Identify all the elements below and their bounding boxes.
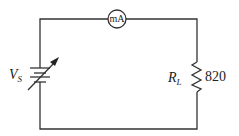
wire-top-left [40,19,108,68]
source-symbol: V [9,67,18,82]
wire-top-right [126,19,197,62]
resistor-zigzag-icon [192,62,201,92]
source-label: VS [9,68,22,83]
load-value: 820 [205,70,226,84]
ammeter-label: mA [108,14,126,24]
load-label: RL [168,71,182,86]
source-subscript: S [18,74,23,84]
load-symbol: R [168,70,177,85]
circuit-diagram: mA VS RL 820 [0,0,239,136]
variable-arrow-head-icon [50,57,59,66]
variable-arrow-line [28,61,56,90]
wire-bottom [40,82,197,129]
load-subscript: L [177,77,182,87]
